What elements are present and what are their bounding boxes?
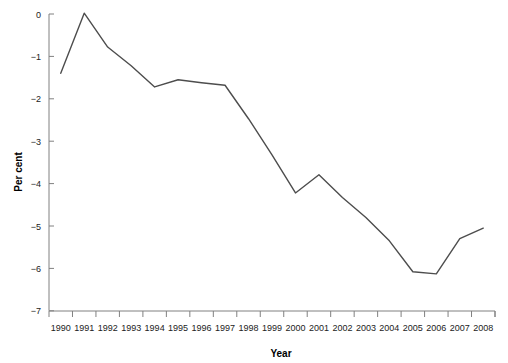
- x-axis-tick-label: 1992: [98, 323, 118, 333]
- y-axis-title: Per cent: [13, 152, 24, 192]
- y-axis-tick-label: −3: [31, 137, 41, 147]
- x-axis-tick-label: 2000: [285, 323, 305, 333]
- x-axis-tick-label: 1999: [262, 323, 282, 333]
- line-chart: 0−1−2−3−4−5−6−7 199019911992199319941995…: [0, 0, 508, 363]
- x-axis-tick-label: 1990: [51, 323, 71, 333]
- y-axis-tick-label: −1: [31, 52, 41, 62]
- x-axis-tick-label: 1995: [168, 323, 188, 333]
- x-axis-tick-label: 2001: [309, 323, 329, 333]
- y-axis-tick-label: −2: [31, 94, 41, 104]
- x-axis-tick-label: 1991: [74, 323, 94, 333]
- y-axis-tick-label: 0: [36, 10, 41, 20]
- x-axis-tick-label: 2007: [450, 323, 470, 333]
- y-axis-tick-label: −5: [31, 222, 41, 232]
- x-axis-tick-label: 1993: [121, 323, 141, 333]
- x-axis-title: Year: [270, 348, 291, 359]
- x-axis-tick-label: 2003: [356, 323, 376, 333]
- x-axis-tick-label: 2004: [379, 323, 399, 333]
- x-axis-tick-label: 1994: [145, 323, 165, 333]
- chart-background: [0, 0, 508, 363]
- y-axis-tick-label: −7: [31, 306, 41, 316]
- x-axis-tick-label: 1998: [239, 323, 259, 333]
- y-axis-tick-label: −6: [31, 264, 41, 274]
- y-axis-tick-label: −4: [31, 179, 41, 189]
- x-axis-tick-label: 1996: [192, 323, 212, 333]
- x-axis-tick-label: 1997: [215, 323, 235, 333]
- x-axis-tick-label: 2005: [403, 323, 423, 333]
- x-axis-tick-label: 2008: [473, 323, 493, 333]
- x-axis-tick-label: 2006: [426, 323, 446, 333]
- x-axis-tick-label: 2002: [332, 323, 352, 333]
- chart-canvas: 0−1−2−3−4−5−6−7 199019911992199319941995…: [0, 0, 508, 363]
